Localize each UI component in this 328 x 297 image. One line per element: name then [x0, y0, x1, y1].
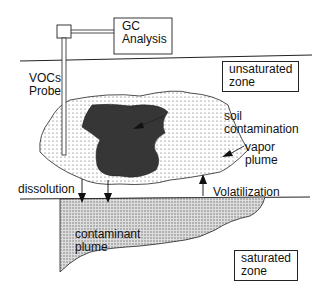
gc-analysis-label: GCAnalysis: [122, 20, 167, 46]
vocs-probe-label: VOCsProbe: [29, 72, 61, 98]
dissolution-label: dissolution: [18, 183, 75, 196]
probe-head: [57, 25, 71, 38]
vapor-plume-label: vaporplume: [245, 141, 278, 167]
soil-contamination-label: soilcontamination: [224, 110, 299, 136]
volatilization-label: Volatilization: [213, 186, 280, 199]
diagram-canvas: GCAnalysis VOCsProbe unsaturatedzone soi…: [0, 0, 328, 297]
contaminant-plume-label: contaminantplume: [75, 228, 140, 254]
unsaturated-zone-label: unsaturatedzone: [222, 61, 299, 92]
saturated-zone-label: saturatedzone: [234, 250, 298, 281]
probe-shaft: [62, 38, 66, 155]
